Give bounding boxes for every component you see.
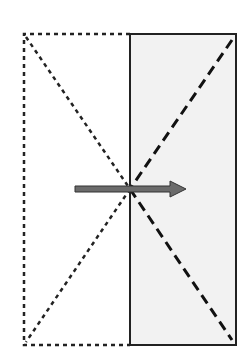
diagram-canvas xyxy=(0,0,252,359)
dotted-diagonal-upper xyxy=(26,37,130,189)
dotted-diagonal-lower xyxy=(26,189,130,342)
